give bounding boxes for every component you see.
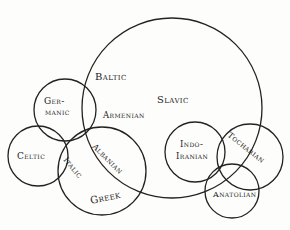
language-family-diagram: Baltic Slavic Ger- manic Armenian Celtic…: [0, 0, 290, 230]
label-anatolian: Anatolian: [212, 190, 257, 199]
label-germanic-line2: manic: [45, 107, 70, 117]
label-greek: Greek: [89, 189, 122, 206]
tocharian-circle: [217, 124, 283, 190]
label-indo-iranian-line1: Indo-: [180, 139, 203, 149]
label-indo-iranian-line2: Iranian: [176, 151, 208, 161]
label-armenian: Armenian: [102, 110, 145, 120]
label-baltic: Baltic: [95, 71, 127, 82]
label-germanic-line1: Ger-: [44, 96, 65, 106]
label-italic: Italic: [61, 156, 84, 181]
label-slavic: Slavic: [157, 94, 189, 105]
label-celtic: Celtic: [17, 151, 45, 161]
